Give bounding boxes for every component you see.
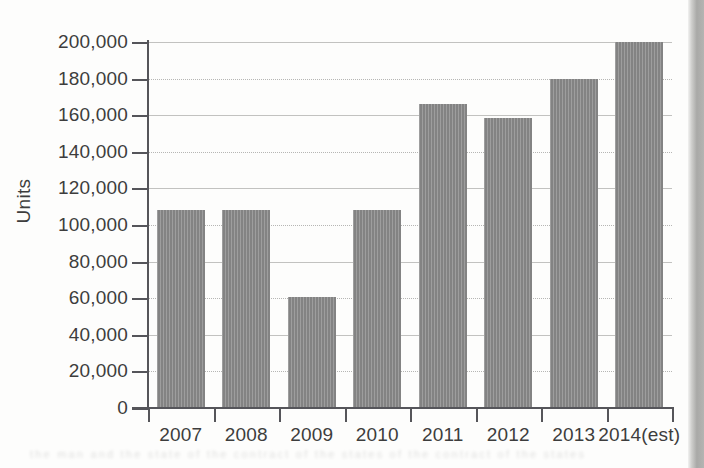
x-axis-tick (345, 407, 347, 422)
y-axis-tick (132, 42, 148, 44)
bar-2007 (157, 210, 205, 408)
gridline (148, 42, 672, 43)
y-axis-tick-label: 40,000 (8, 324, 128, 346)
y-axis-tick-label: 60,000 (8, 287, 128, 309)
y-axis-tick (132, 298, 148, 300)
bar-chart-figure: Units 020,00040,00060,00080,000100,00012… (0, 0, 688, 468)
x-axis-tick (214, 407, 216, 422)
bar-2013 (550, 79, 598, 408)
y-axis-tick-label: 20,000 (8, 360, 128, 382)
x-axis-tick-label: 2008 (225, 424, 268, 446)
x-axis-tick-label: 2010 (356, 424, 399, 446)
x-axis-tick (410, 407, 412, 422)
y-axis-tick-label: 160,000 (8, 104, 128, 126)
x-axis-tick (148, 407, 150, 422)
scan-bleed-text: the man and the state of the contract of… (30, 448, 664, 460)
bar-2014est (615, 42, 663, 408)
y-axis-tick (132, 115, 148, 117)
y-axis-tick (132, 371, 148, 373)
y-axis-tick-label: 120,000 (8, 177, 128, 199)
y-axis-tick-label: 100,000 (8, 214, 128, 236)
bar-2010 (353, 210, 401, 408)
x-axis-tick (607, 407, 609, 422)
scanned-page: Units 020,00040,00060,00080,000100,00012… (0, 0, 704, 468)
x-axis-tick-label: 2013 (552, 424, 595, 446)
x-axis-tick-label: 2009 (290, 424, 333, 446)
y-axis-tick (132, 335, 148, 337)
x-axis-tick-label: 2014(est) (598, 424, 680, 446)
y-axis-tick (132, 152, 148, 154)
x-axis-tick-label: 2011 (422, 424, 464, 446)
bar-2008 (222, 210, 270, 408)
y-axis-tick-label: 80,000 (8, 251, 128, 273)
scan-edge-strip (688, 0, 704, 468)
x-axis-tick (476, 407, 478, 422)
x-axis-tick (541, 407, 543, 422)
bar-2009 (288, 297, 336, 408)
bar-2011 (419, 104, 467, 408)
x-axis-tick-label: 2007 (159, 424, 202, 446)
y-axis-tick-label: 200,000 (8, 31, 128, 53)
y-axis-tick (132, 188, 148, 190)
plot-area (148, 42, 672, 408)
x-axis-tick-label: 2012 (487, 424, 530, 446)
x-axis-tick (279, 407, 281, 422)
y-axis-tick-label: 180,000 (8, 68, 128, 90)
y-axis-tick (132, 79, 148, 81)
y-axis-tick-labels: 020,00040,00060,00080,000100,000120,0001… (0, 0, 128, 468)
bar-2012 (484, 118, 532, 408)
y-axis-tick (132, 408, 148, 410)
x-axis-tick (672, 407, 674, 422)
y-axis-tick-label: 0 (8, 397, 128, 419)
y-axis-tick-label: 140,000 (8, 141, 128, 163)
y-axis-tick (132, 262, 148, 264)
y-axis-tick (132, 225, 148, 227)
